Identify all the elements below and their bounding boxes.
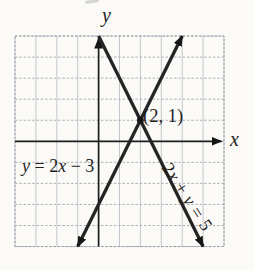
intersection-label: (2, 1) [143, 106, 183, 127]
y-axis-label: y [102, 4, 111, 27]
eq1-var-y: y [22, 156, 30, 176]
eq1-var-x: x [58, 156, 66, 176]
eq1-end: − 3 [66, 156, 94, 176]
equation-label-line1: y = 2x − 3 [22, 156, 94, 177]
graph-figure: y x (2, 1) y = 2x − 3 2x + y = 5 [0, 0, 254, 271]
eq1-mid: = 2 [30, 156, 58, 176]
textbook-graph-figure: { "figure": { "axis_labels": { "x": "x",… [0, 0, 254, 271]
graph-canvas [0, 0, 254, 271]
x-axis-label: x [230, 128, 239, 151]
